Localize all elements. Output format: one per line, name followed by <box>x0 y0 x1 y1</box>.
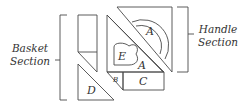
handle-section-bracket <box>177 7 194 72</box>
label-body-a: A <box>137 59 146 72</box>
handle-label-line2: Section <box>198 36 238 48</box>
basket-label-line2: Section <box>10 55 50 67</box>
piece-d <box>78 64 114 100</box>
basket-side-strip <box>78 15 97 72</box>
label-c: C <box>139 75 148 88</box>
basket-block-diagram: Basket Section Handle Section D A E A B <box>0 0 245 107</box>
label-b: B <box>112 76 118 84</box>
basket-label-line1: Basket <box>11 42 49 54</box>
label-handle-a: A <box>145 25 154 38</box>
label-e: E <box>117 50 126 63</box>
label-d: D <box>86 84 96 97</box>
basket-section-bracket <box>55 15 67 100</box>
handle-label-line1: Handle <box>198 23 237 35</box>
